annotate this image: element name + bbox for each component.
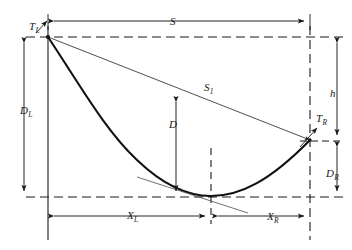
chord-line-s1 bbox=[48, 37, 310, 140]
catenary-diagram: S S1 D DL DR h TL TR XL XR bbox=[0, 0, 352, 250]
label-dist-left-xl: XL bbox=[127, 210, 138, 221]
label-depth-right-dr: DR bbox=[326, 168, 339, 179]
span-dimension-s bbox=[48, 14, 310, 30]
label-tension-left-tl: TL bbox=[29, 21, 39, 32]
label-depth-left-dl: DL bbox=[20, 105, 32, 116]
reference-lines bbox=[26, 26, 344, 240]
label-tension-right-tr: TR bbox=[316, 113, 327, 124]
catenary-curve bbox=[48, 37, 310, 196]
label-height-diff-h: h bbox=[330, 88, 336, 99]
label-sag-d: D bbox=[169, 119, 177, 130]
label-span-s: S bbox=[170, 16, 176, 27]
label-dist-right-xr: XR bbox=[267, 211, 278, 222]
left-anchor-point bbox=[46, 35, 50, 39]
tangent-line-low-point bbox=[137, 177, 248, 213]
right-anchor-point bbox=[308, 138, 311, 141]
label-chord-s1: S1 bbox=[204, 82, 213, 93]
